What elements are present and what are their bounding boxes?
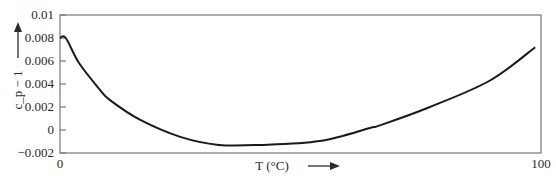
arrow-up-icon [14, 22, 22, 32]
y-tick-label: 0.002 [25, 99, 54, 114]
arrow-right-icon [330, 162, 340, 170]
chart: 0.010.0080.0060.0040.0020−0.002 0100 c_p… [0, 0, 556, 176]
y-axis-label: c_p − 1 [10, 22, 25, 110]
y-tick-label: 0.004 [25, 76, 55, 91]
y-tick-label: 0.006 [25, 53, 55, 68]
x-tick-label: 100 [531, 156, 551, 171]
x-axis-label: T (°C) [255, 158, 340, 173]
y-tick-label: 0.01 [31, 7, 54, 22]
series-line [60, 36, 535, 146]
y-tick-label: 0 [48, 122, 55, 137]
y-tick-label: −0.002 [17, 145, 54, 160]
y-axis-label-text: c_p − 1 [10, 70, 25, 109]
x-axis-ticks: 0100 [57, 156, 551, 171]
x-axis-label-text: T (°C) [255, 158, 288, 173]
plot-frame [60, 15, 541, 153]
y-tick-label: 0.008 [25, 30, 54, 45]
x-tick-label: 0 [57, 156, 64, 171]
